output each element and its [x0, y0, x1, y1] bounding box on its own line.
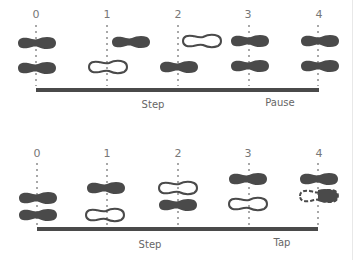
- timeline-bar: [36, 88, 319, 92]
- step-label: Step: [142, 99, 165, 110]
- foot-filled-icon: [19, 209, 57, 221]
- foot-filled-icon: [301, 60, 339, 72]
- count-label: 1: [104, 147, 111, 160]
- foot-filled-icon: [301, 35, 339, 47]
- step-label: Step: [139, 239, 162, 250]
- count-label: 3: [245, 147, 252, 160]
- footwork-graphics: [0, 0, 354, 260]
- foot-filled-icon: [300, 173, 338, 185]
- count-label: 4: [316, 8, 323, 21]
- timeline-bar: [37, 227, 318, 231]
- count-label: 2: [175, 8, 182, 21]
- bottom-diagram: [19, 163, 338, 231]
- footwork-diagram: 0 1 2 3 4 Step Pause 0 1 2 3 4 Step Tap: [0, 0, 354, 260]
- top-diagram: [18, 25, 339, 92]
- tap-label: Tap: [274, 237, 291, 248]
- foot-filled-icon: [231, 35, 269, 47]
- foot-filled-icon: [112, 36, 150, 48]
- foot-filled-icon: [87, 182, 125, 194]
- count-label: 1: [104, 8, 111, 21]
- foot-filled-icon: [18, 62, 56, 74]
- count-guide-lines: [37, 163, 318, 225]
- count-label: 3: [245, 8, 252, 21]
- count-label: 2: [175, 147, 182, 160]
- foot-outline-icon: [86, 209, 124, 221]
- page-edge-divider: [352, 0, 353, 260]
- count-label: 0: [34, 147, 41, 160]
- foot-filled-icon: [229, 173, 267, 185]
- pause-label: Pause: [265, 97, 294, 108]
- foot-outline-icon: [229, 198, 267, 210]
- foot-toe-tap-icon: [300, 189, 338, 203]
- count-label: 0: [33, 8, 40, 21]
- count-label: 4: [316, 147, 323, 160]
- foot-outline-icon: [183, 35, 221, 47]
- count-guide-lines: [36, 25, 318, 86]
